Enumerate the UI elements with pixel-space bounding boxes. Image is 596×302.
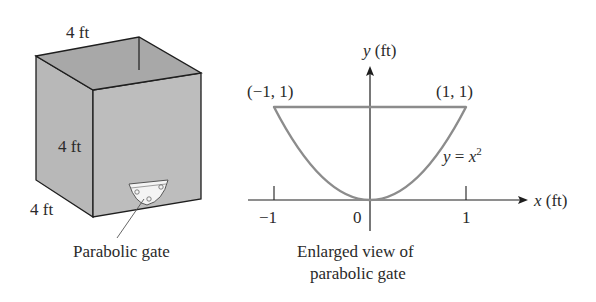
tick-label-neg1: −1	[259, 208, 277, 227]
point-left-label: (−1, 1)	[247, 82, 293, 101]
figure: 4 ft 4 ft 4 ft Parabolic gate y (ft) x (…	[0, 0, 596, 302]
tank-width-label: 4 ft	[66, 23, 89, 42]
curve-equation-label: y = x2	[441, 145, 482, 166]
y-axis-label: y (ft)	[361, 41, 397, 60]
tick-label-0: 0	[353, 208, 362, 227]
parabola-graph: y (ft) x (ft) (−1, 1) (1, 1) y = x2 −1 0…	[247, 41, 568, 283]
x-axis-label: x (ft)	[533, 191, 568, 210]
caption-line-2: parabolic gate	[310, 264, 406, 283]
tank-height-label: 4 ft	[58, 137, 81, 156]
caption-line-1: Enlarged view of	[297, 242, 414, 261]
tick-label-1: 1	[462, 208, 471, 227]
tank-depth-label: 4 ft	[30, 200, 53, 219]
gate-label: Parabolic gate	[73, 242, 170, 261]
point-right-label: (1, 1)	[436, 82, 473, 101]
tank-drawing: 4 ft 4 ft 4 ft Parabolic gate	[30, 23, 201, 261]
